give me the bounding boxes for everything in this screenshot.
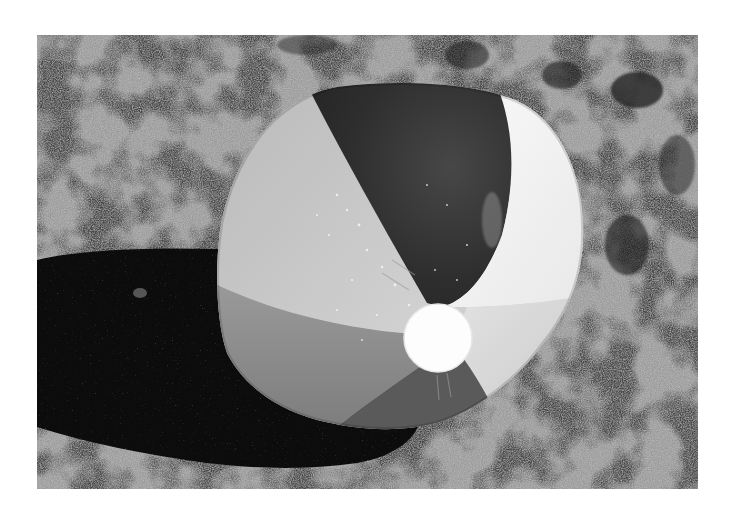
ball-cap bbox=[404, 304, 472, 372]
beach-ball-photo: Grayscale photograph of a striped beach … bbox=[37, 35, 698, 489]
